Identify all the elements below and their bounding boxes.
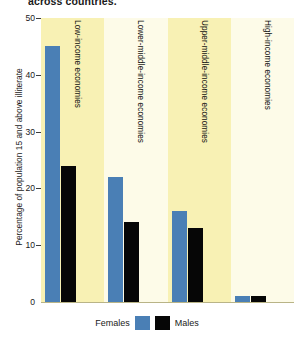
chart-legend: Females Males xyxy=(0,316,294,330)
y-tick-mark xyxy=(36,18,41,19)
bar-males xyxy=(61,166,76,302)
x-axis-line xyxy=(41,302,294,303)
category-label: Upper-middle-income economies xyxy=(200,20,209,143)
y-axis-ticks: 01020304050 xyxy=(11,0,35,346)
category-label: Lower-middle-income economies xyxy=(136,20,145,143)
y-tick-mark xyxy=(36,188,41,189)
y-tick-label: 40 xyxy=(13,70,35,80)
legend-label-males: Males xyxy=(175,318,199,328)
category-label: High-income economies xyxy=(263,20,272,110)
y-tick-mark xyxy=(36,132,41,133)
legend-label-females: Females xyxy=(95,318,130,328)
illiteracy-bar-chart: across countries. Percentage of populati… xyxy=(0,0,294,346)
bar-females xyxy=(108,177,123,302)
category-label: Low-income economies xyxy=(73,20,82,108)
legend-swatch-females xyxy=(135,316,150,330)
chart-title: across countries. xyxy=(28,0,268,7)
bar-males xyxy=(124,222,139,302)
y-tick-label: 10 xyxy=(13,240,35,250)
y-tick-label: 0 xyxy=(13,297,35,307)
bar-females xyxy=(45,46,60,302)
y-tick-label: 50 xyxy=(13,13,35,23)
bar-females xyxy=(172,211,187,302)
legend-swatch-males xyxy=(155,316,170,330)
y-tick-mark xyxy=(36,245,41,246)
y-tick-label: 30 xyxy=(13,127,35,137)
bar-males xyxy=(188,228,203,302)
y-tick-mark xyxy=(36,75,41,76)
y-tick-label: 20 xyxy=(13,183,35,193)
